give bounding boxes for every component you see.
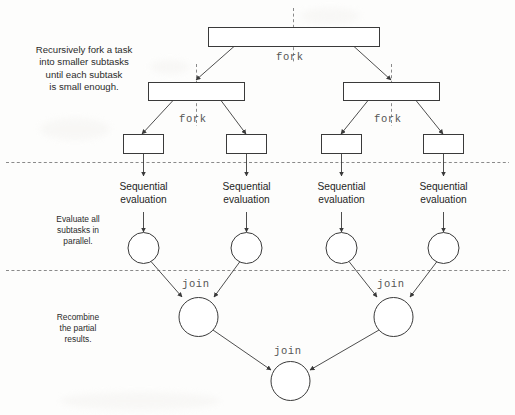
result-node-2 <box>231 233 262 264</box>
edge-result1-to-joinleft <box>151 262 182 298</box>
task-box-leaf-1 <box>124 135 164 154</box>
annotation-fork-note: Recursively fork a task into smaller sub… <box>14 44 154 93</box>
annotation-join-note: Recombine the partial results. <box>32 312 124 345</box>
edge-root-to-right <box>354 47 391 81</box>
result-node-3 <box>326 233 357 264</box>
label-sequential-evaluation-3: Sequential evaluation <box>296 181 388 206</box>
edge-joinleft-to-joinbottom <box>213 330 271 370</box>
label-join-bottom: join <box>274 345 302 357</box>
edge-l2left-to-l3-1 <box>142 101 173 135</box>
label-fork-left-level2: fork <box>179 113 207 125</box>
result-node-4 <box>428 233 459 264</box>
label-sequential-evaluation-2: Sequential evaluation <box>201 181 293 206</box>
task-box-leaf-3 <box>322 135 362 154</box>
label-join-right: join <box>377 278 405 290</box>
label-fork-right-level2: fork <box>374 113 402 125</box>
edge-l2left-to-l3-2 <box>221 101 246 135</box>
task-box-level2-right <box>344 83 440 101</box>
join-node-right <box>374 298 413 337</box>
task-box-leaf-4 <box>424 135 464 154</box>
edge-l2right-to-l3-4 <box>416 101 443 135</box>
edge-result3-to-joinright <box>349 262 377 298</box>
task-box-root <box>209 28 380 47</box>
label-sequential-evaluation-1: Sequential evaluation <box>98 181 190 206</box>
task-box-leaf-2 <box>227 135 267 154</box>
annotation-eval-note: Evaluate all subtasks in parallel. <box>32 214 124 247</box>
edge-l2right-to-l3-3 <box>341 101 368 135</box>
task-box-level2-left <box>149 83 245 101</box>
label-sequential-evaluation-4: Sequential evaluation <box>398 181 490 206</box>
edge-result2-to-joinleft <box>214 262 240 298</box>
edge-joinright-to-joinbottom <box>310 330 379 370</box>
label-join-left: join <box>182 278 210 290</box>
join-node-left <box>179 298 218 337</box>
label-fork-root: fork <box>276 51 304 63</box>
edge-root-to-left <box>196 47 234 81</box>
join-node-bottom <box>271 362 310 401</box>
edge-result4-to-joinright <box>410 262 437 298</box>
diagram-canvas: Recursively fork a task into smaller sub… <box>0 0 515 415</box>
result-node-1 <box>128 233 159 264</box>
